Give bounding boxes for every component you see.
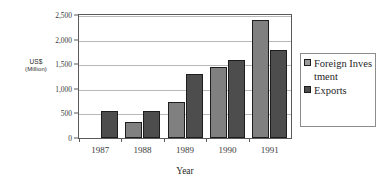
y-axis-tick-label: 2,000 [55, 35, 72, 44]
x-axis-tick-mark [79, 139, 80, 142]
bar [101, 111, 118, 138]
bar-group [121, 15, 163, 138]
x-axis-tick-slot [164, 139, 206, 143]
x-axis-tick-slot [249, 139, 291, 143]
x-axis-tick-mark [164, 139, 165, 142]
x-axis-tick-slot [206, 139, 248, 143]
chart-legend: Foreign InvestmentExports [300, 53, 376, 127]
y-axis-tick-label: 0 [68, 134, 72, 143]
x-axis-tick-label: 1991 [249, 145, 291, 155]
x-axis-tick-label: 1987 [79, 145, 121, 155]
bar-group [206, 15, 248, 138]
x-axis-tick-labels: 19871988198919901991 [79, 145, 291, 155]
bar-group [249, 15, 291, 138]
bar [186, 74, 203, 138]
y-axis-tick-label: 1,500 [55, 60, 72, 69]
bar [125, 122, 142, 138]
x-axis-tick-label: 1990 [206, 145, 248, 155]
x-axis-tick-mark [121, 139, 122, 142]
y-axis-tick-label: 2,500 [55, 11, 72, 20]
legend-entry[interactable]: Foreign Investment [304, 57, 373, 83]
bar-group [164, 15, 206, 138]
bar [252, 20, 269, 138]
legend-swatch-icon [304, 86, 311, 93]
y-axis-tick-label: 500 [61, 109, 72, 118]
x-axis-ticks [79, 139, 291, 143]
x-axis-tick-mark [249, 139, 250, 142]
y-axis-tick-label: 1,000 [55, 84, 72, 93]
bar-group [79, 15, 121, 138]
legend-entry[interactable]: Exports [304, 84, 373, 97]
bar [210, 67, 227, 138]
bar [270, 50, 287, 138]
x-axis-tick-slot [121, 139, 163, 143]
bar [228, 60, 245, 138]
x-axis-tick-mark [206, 139, 207, 142]
bars-layer [79, 15, 291, 138]
y-axis-ticks: 05001,0001,5002,0002,500 [40, 14, 78, 139]
x-axis-tick-label: 1988 [121, 145, 163, 155]
legend-label: Exports [314, 84, 347, 97]
x-axis-title: Year [79, 166, 291, 176]
legend-label: Foreign Investment [314, 57, 373, 83]
x-axis-tick-slot [79, 139, 121, 143]
legend-swatch-icon [304, 59, 311, 66]
bar [143, 111, 160, 138]
bar [168, 102, 185, 138]
bar-chart: US$ (Million) 05001,0001,5002,0002,500 1… [0, 0, 386, 194]
x-axis-tick-label: 1989 [164, 145, 206, 155]
